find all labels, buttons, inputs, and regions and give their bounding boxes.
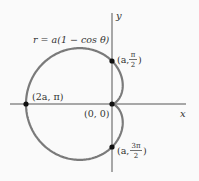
cardioid-figure: y x r = a(1 − cos θ) (a, π 2 ) (2a, π) (… [0,0,199,181]
svg-text:2: 2 [134,152,138,160]
x-axis-label: x [180,108,186,119]
label-a-pi-over-2: (a, [117,54,129,65]
point-2a-pi [23,101,28,106]
label-a-3pi-over-2: (a, [117,145,129,156]
point-a-pi-over-2 [109,58,114,63]
y-axis-label: y [115,10,122,21]
svg-text:3π: 3π [131,142,140,150]
point-origin [109,101,114,106]
svg-text:): ) [138,54,142,65]
label-origin: (0, 0) [84,108,110,119]
svg-text:): ) [143,145,147,156]
svg-text:π: π [131,51,136,59]
label-2a-pi: (2a, π) [32,91,63,102]
svg-text:2: 2 [131,61,135,69]
equation-label: r = a(1 − cos θ) [33,34,110,45]
point-a-3pi-over-2 [109,144,114,149]
